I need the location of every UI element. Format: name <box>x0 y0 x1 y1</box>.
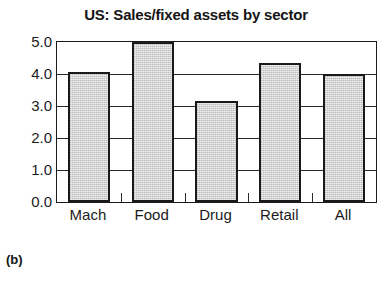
y-axis-tick-label: 2.0 <box>0 129 52 146</box>
x-axis-tick-mark <box>248 193 249 202</box>
y-axis-tick-label: 5.0 <box>0 33 52 50</box>
bar-retail <box>259 63 301 202</box>
x-axis-tick-mark <box>121 193 122 202</box>
bar-drug <box>195 101 237 202</box>
y-axis-tick-label: 3.0 <box>0 97 52 114</box>
bar-mach <box>68 72 110 202</box>
y-axis-tick-label: 1.0 <box>0 161 52 178</box>
x-axis-tick-mark <box>185 193 186 202</box>
x-axis-tick-labels: MachFoodDrugRetailAll <box>56 206 377 232</box>
x-axis-tick-label: Food <box>135 206 169 223</box>
bar-food <box>132 42 174 202</box>
figure-caption: (b) <box>6 252 23 267</box>
figure-panel: US: Sales/fixed assets by sector 0.01.02… <box>0 0 392 284</box>
bar-series <box>57 42 376 202</box>
y-axis-tick-label: 0.0 <box>0 193 52 210</box>
x-axis-tick-mark <box>312 193 313 202</box>
x-axis-tick-label: All <box>335 206 352 223</box>
bar-all <box>323 74 365 202</box>
chart-title: US: Sales/fixed assets by sector <box>0 6 392 23</box>
x-axis-tick-label: Mach <box>70 206 107 223</box>
x-axis-tick-label: Drug <box>199 206 232 223</box>
y-axis-tick-labels: 0.01.02.03.04.05.0 <box>0 41 52 203</box>
x-axis-tick-label: Retail <box>260 206 298 223</box>
plot-area <box>56 41 377 203</box>
y-axis-tick-label: 4.0 <box>0 65 52 82</box>
